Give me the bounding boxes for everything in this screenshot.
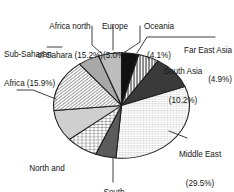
label-sub-saharan-africa: Sub-Saharan Africa (15.9%) (4, 31, 74, 108)
label-line: (29.5%) (170, 179, 230, 189)
label-line: South (75, 188, 153, 192)
label-line: Africa (15.9%) (4, 79, 74, 89)
label-europe: Europe (5.0%) (97, 3, 133, 80)
label-line: (10.2%) (152, 96, 214, 106)
label-line: Europe (97, 22, 133, 32)
pie-chart-figure: Africa north of Sahara (15.2%) Europe (5… (0, 0, 234, 192)
label-line: South Asia (152, 67, 214, 77)
label-line: (5.0%) (97, 51, 133, 61)
label-line: Sub-Saharan (4, 50, 74, 60)
label-middle-east: Middle East (29.5%) (170, 131, 230, 192)
label-south-asia: South Asia (10.2%) (152, 48, 214, 125)
label-line: Middle East (170, 150, 230, 160)
label-south-america: South America (7.5%) (75, 169, 153, 192)
